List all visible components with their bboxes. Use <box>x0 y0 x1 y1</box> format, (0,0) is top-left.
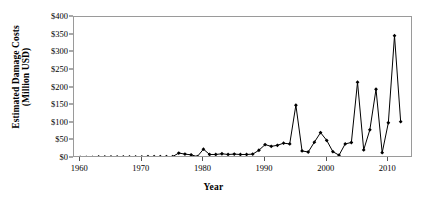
y-axis-tick-label: $350 <box>51 29 68 39</box>
x-axis-tick-mark <box>202 157 203 161</box>
x-axis-tick-label: 1960 <box>71 163 88 173</box>
data-point-marker <box>121 155 125 157</box>
data-point-marker <box>232 152 236 156</box>
x-axis-tick-label: 1970 <box>132 163 149 173</box>
x-axis-tick-labels: 196019701980199020002010 <box>0 163 427 177</box>
data-point-marker <box>276 143 280 147</box>
data-point-marker <box>146 155 150 157</box>
y-axis-tick-mark <box>69 16 73 17</box>
data-point-marker <box>165 155 169 157</box>
y-axis-tick-label: $400 <box>51 11 68 21</box>
y-axis-tick-mark <box>69 86 73 87</box>
data-point-marker <box>134 155 138 157</box>
data-point-marker <box>97 155 101 157</box>
data-point-marker <box>368 128 372 132</box>
data-point-marker <box>189 153 193 157</box>
series-line <box>80 36 401 157</box>
y-axis-tick-label: $200 <box>51 82 68 92</box>
data-point-marker <box>91 155 95 157</box>
x-axis-tick-mark <box>79 157 80 161</box>
y-axis-title-line1: Estimated Damage Costs <box>11 25 21 129</box>
series-markers <box>78 34 402 157</box>
y-axis-tick-mark <box>69 33 73 34</box>
data-point-marker <box>128 155 132 157</box>
data-point-marker <box>343 142 347 146</box>
data-point-marker <box>226 153 230 157</box>
data-point-marker <box>356 80 360 84</box>
y-axis-tick-mark <box>69 121 73 122</box>
data-point-marker <box>183 152 187 156</box>
series-plot <box>74 17 412 157</box>
data-point-marker <box>294 103 298 107</box>
data-point-marker <box>220 152 224 156</box>
data-point-marker <box>288 142 292 146</box>
data-point-marker <box>282 141 286 145</box>
x-axis-tick-label: 2010 <box>379 163 396 173</box>
data-point-marker <box>152 155 156 157</box>
y-axis-tick-mark <box>69 139 73 140</box>
data-point-marker <box>300 149 304 153</box>
data-point-marker <box>374 87 378 91</box>
y-axis-tick-mark <box>69 157 73 158</box>
data-point-marker <box>362 148 366 152</box>
y-axis-tick-mark <box>69 68 73 69</box>
y-axis-tick-label: $0 <box>60 152 69 162</box>
data-point-marker <box>158 155 162 157</box>
y-axis-tick-label: $50 <box>55 134 68 144</box>
x-axis-tick-mark <box>141 157 142 161</box>
y-axis-tick-label: $100 <box>51 117 68 127</box>
y-axis-tick-mark <box>69 104 73 105</box>
x-axis-title: Year <box>0 182 427 192</box>
data-point-marker <box>214 153 218 157</box>
data-point-marker <box>84 155 88 157</box>
x-axis-tick-mark <box>326 157 327 161</box>
x-axis-tick-mark <box>264 157 265 161</box>
data-point-marker <box>269 144 273 148</box>
damage-costs-line-chart: Estimated Damage Costs (Million USD) $0$… <box>0 0 427 214</box>
data-point-marker <box>393 34 397 38</box>
y-axis-tick-mark <box>69 51 73 52</box>
data-point-marker <box>103 155 107 157</box>
x-axis-tick-label: 2000 <box>317 163 334 173</box>
data-point-marker <box>239 153 243 157</box>
data-point-marker <box>115 155 119 157</box>
data-point-marker <box>386 121 390 125</box>
x-axis-tick-label: 1990 <box>256 163 273 173</box>
data-point-marker <box>399 120 403 124</box>
data-point-marker <box>349 141 353 145</box>
data-point-marker <box>337 153 341 157</box>
x-axis-tick-mark <box>387 157 388 161</box>
data-point-marker <box>380 151 384 155</box>
x-axis-tick-label: 1980 <box>194 163 211 173</box>
data-point-marker <box>109 155 113 157</box>
y-axis-tick-label: $250 <box>51 64 68 74</box>
y-axis-tick-label: $150 <box>51 99 68 109</box>
data-point-marker <box>245 153 249 157</box>
plot-area <box>73 16 412 157</box>
y-axis-tick-label: $300 <box>51 46 68 56</box>
